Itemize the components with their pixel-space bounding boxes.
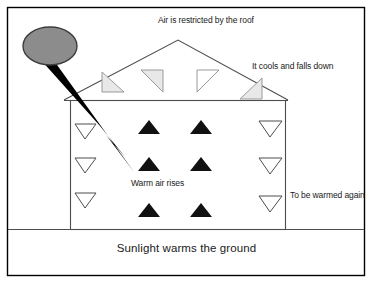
label-cools-and-falls: It cools and falls down xyxy=(252,61,333,72)
rising-air-triangle xyxy=(190,120,212,134)
falling-air-triangle xyxy=(259,121,282,137)
falling-air-triangle xyxy=(75,158,96,173)
label-to-be-warmed-again: To be warmed again xyxy=(290,190,366,201)
falling-air-triangle xyxy=(75,193,96,208)
house-walls xyxy=(71,101,286,230)
caption-sunlight-warms-ground: Sunlight warms the ground xyxy=(0,243,373,254)
label-air-restricted: Air is restricted by the roof xyxy=(158,15,254,26)
rising-air-triangle xyxy=(138,203,160,217)
diagram-canvas: Air is restricted by the roof It cools a… xyxy=(0,0,373,284)
rising-air-triangle xyxy=(138,157,160,171)
roof-triangle-1 xyxy=(102,72,124,92)
sun xyxy=(23,27,77,65)
falling-air-triangle xyxy=(75,124,96,139)
roof-triangle-2 xyxy=(141,70,163,92)
rising-air-triangle xyxy=(138,120,160,134)
rising-air-triangle xyxy=(190,203,212,217)
rising-air-triangle xyxy=(190,157,212,171)
roof-triangle-4 xyxy=(240,78,262,99)
roof-triangle-3 xyxy=(197,70,219,92)
falling-air-triangle xyxy=(259,158,282,174)
label-warm-air-rises: Warm air rises xyxy=(131,178,184,189)
falling-air-triangle xyxy=(259,196,282,212)
